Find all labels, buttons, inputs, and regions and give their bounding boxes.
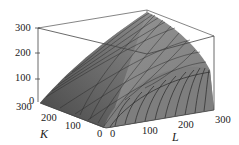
z-tick-300: 300 (15, 23, 31, 34)
surface-plot (0, 0, 239, 145)
l-tick-300: 300 (215, 115, 231, 126)
z-tick-100: 100 (15, 73, 31, 84)
k-tick-300: 300 (16, 102, 32, 113)
k-tick-200: 200 (41, 113, 57, 124)
k-axis-label: K (40, 128, 48, 140)
z-axis-ticks (35, 28, 40, 79)
surface-mesh (40, 12, 214, 128)
k-tick-100: 100 (65, 121, 81, 132)
l-tick-0: 0 (110, 129, 115, 140)
k-tick-0: 0 (97, 129, 102, 140)
z-tick-200: 200 (15, 48, 31, 59)
l-axis-label: L (172, 131, 179, 143)
l-tick-200: 200 (178, 120, 194, 131)
l-tick-100: 100 (142, 126, 158, 137)
